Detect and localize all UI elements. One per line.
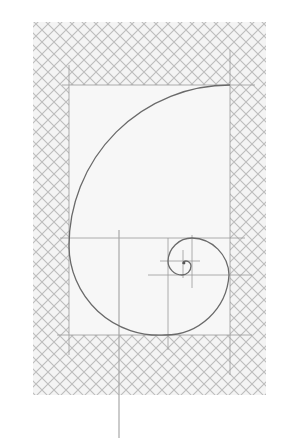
spiral-center-dot (183, 262, 186, 265)
golden-spiral-diagram (0, 0, 285, 438)
inner-rectangle (69, 85, 230, 335)
